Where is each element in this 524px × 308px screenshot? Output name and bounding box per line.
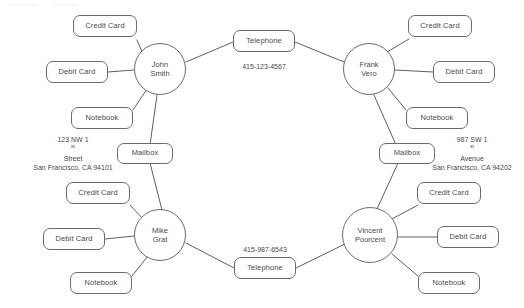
edge-vincent-pourcent-to-credit-card-br (392, 205, 418, 219)
person-name-line1: Vincent (358, 226, 383, 235)
edge-mailbox-left-to-mike-grat (150, 163, 162, 210)
address-city-line: San Francisco, CA 94101 (33, 163, 112, 172)
address-label-left: 123 NW 1st Street San Francisco, CA 9410… (33, 135, 112, 173)
edge-john-smith-to-telephone-top (186, 42, 233, 62)
edge-notebook-tl-to-john-smith (133, 89, 147, 110)
item-node-credit-card-bottom-right[interactable]: Credit Card (417, 182, 481, 204)
address-street-ordinal: st (71, 143, 75, 149)
edge-debit-card-bl-to-mike-grat (105, 236, 134, 239)
edge-telephone-bottom-to-vincent-pourcent (296, 244, 345, 268)
scan-artifact (8, 4, 38, 6)
person-node-mike-grat[interactable]: Mike Grat (134, 209, 186, 261)
item-node-credit-card-bottom-left[interactable]: Credit Card (66, 182, 130, 204)
person-name-line2: Vero (361, 69, 376, 78)
item-node-notebook-top-left[interactable]: Notebook (71, 107, 133, 129)
item-node-credit-card-top-left[interactable]: Credit Card (73, 15, 137, 37)
edge-notebook-bl-to-mike-grat (132, 256, 148, 276)
person-node-vincent-pourcent[interactable]: Vincent Pourcent (342, 207, 398, 263)
item-node-debit-card-top-left[interactable]: Debit Card (46, 61, 108, 83)
address-city-line: San Francisco, CA 94202 (432, 163, 511, 172)
shared-node-mailbox-left[interactable]: Mailbox (117, 143, 173, 164)
phone-number-label-bottom: 415-987-6543 (243, 246, 287, 253)
item-node-notebook-bottom-left[interactable]: Notebook (70, 272, 132, 294)
person-name-line2: Grat (153, 235, 168, 244)
shared-node-mailbox-right[interactable]: Mailbox (379, 143, 435, 164)
person-name-line1: Mike (152, 226, 168, 235)
edge-frank-vero-to-notebook-tr (388, 88, 406, 110)
address-label-right: 987 SW 1st Avenue San Francisco, CA 9420… (432, 135, 511, 173)
item-node-debit-card-top-right[interactable]: Debit Card (433, 61, 495, 83)
address-street-line: 987 SW 1st Avenue (432, 135, 511, 163)
edge-vincent-pourcent-to-notebook-br (392, 254, 418, 276)
person-name-line2: Pourcent (355, 235, 385, 244)
person-name-line2: Smith (150, 69, 169, 78)
edge-debit-card-tl-to-john-smith (108, 70, 134, 72)
edge-mike-grat-to-telephone-bottom (186, 243, 234, 268)
item-node-debit-card-bottom-left[interactable]: Debit Card (43, 228, 105, 250)
item-node-notebook-bottom-right[interactable]: Notebook (418, 272, 480, 294)
address-street-suffix: Street (33, 154, 112, 163)
shared-node-telephone-bottom[interactable]: Telephone (234, 257, 296, 279)
phone-number-label-top: 415-123-4567 (242, 63, 286, 70)
shared-node-telephone-top[interactable]: Telephone (233, 30, 295, 52)
person-node-john-smith[interactable]: John Smith (134, 43, 186, 95)
address-street-suffix: Avenue (432, 154, 511, 163)
item-node-debit-card-bottom-right[interactable]: Debit Card (437, 226, 499, 248)
edge-mailbox-right-to-vincent-pourcent (377, 163, 398, 209)
edge-frank-vero-to-mailbox-right (374, 95, 396, 145)
person-name-line1: John (152, 60, 168, 69)
person-name-line1: Frank (359, 60, 378, 69)
address-street-ordinal: st (470, 143, 474, 149)
edge-telephone-top-to-frank-vero (295, 42, 344, 62)
address-street-line: 123 NW 1st Street (33, 135, 112, 163)
edge-frank-vero-to-credit-card-tr (387, 39, 409, 52)
person-node-frank-vero[interactable]: Frank Vero (343, 43, 395, 95)
edge-frank-vero-to-debit-card-tr (395, 70, 433, 72)
diagram-canvas: John Smith Frank Vero Mike Grat Vincent … (0, 0, 524, 308)
item-node-credit-card-top-right[interactable]: Credit Card (408, 15, 472, 37)
edge-john-smith-to-mailbox-left (150, 95, 157, 145)
item-node-notebook-top-right[interactable]: Notebook (406, 107, 468, 129)
scan-artifact (52, 4, 78, 6)
